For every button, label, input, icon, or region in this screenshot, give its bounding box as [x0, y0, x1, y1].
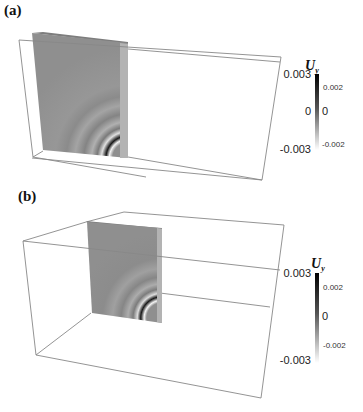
box-a-edge — [262, 57, 281, 180]
colorbar-b-max-label: 0.003 — [283, 267, 311, 279]
colorbar-a-tick-label: 0 — [322, 105, 328, 117]
colorbar-b-tick-label: -0.002 — [323, 341, 346, 350]
colorbar-a-gradient — [315, 74, 319, 150]
box-b-edge — [23, 222, 86, 241]
box-b-edge — [261, 225, 284, 398]
colorbar-b-min-label: -0.003 — [280, 354, 311, 366]
box-b-edge — [86, 212, 124, 222]
box-b-edge — [23, 241, 36, 355]
figure-canvas: (a) Uy 0.003 0 -0.003 0.002 0 -0.002 — [0, 0, 363, 412]
colorbar-b-tick-label: 0.002 — [323, 283, 344, 292]
box-a-edge — [33, 151, 43, 157]
box-b-edge — [124, 212, 284, 225]
colorbar-b-gradient — [315, 273, 319, 363]
panel-b: (b) Uy 0.003 -0.003 0.002 0 -0.002 — [18, 188, 346, 398]
box-a-edge — [128, 157, 262, 180]
box-b-edge — [36, 313, 91, 355]
panel-a: (a) Uy 0.003 0 -0.003 0.002 0 -0.002 — [4, 2, 345, 180]
colorbar-a-min-label: -0.003 — [280, 143, 311, 155]
colorbar-b-tick-label: 0 — [322, 310, 328, 322]
colorbar-a: Uy 0.003 0 -0.003 0.002 0 -0.002 — [280, 58, 345, 155]
slab-b — [86, 221, 162, 323]
colorbar-b-title: Uy — [311, 256, 325, 273]
slab-a — [32, 32, 128, 158]
box-b-edge — [160, 293, 270, 307]
colorbar-a-mid-label: 0 — [305, 105, 311, 117]
panel-a-label: (a) — [4, 2, 22, 19]
box-b-edge — [36, 355, 261, 398]
panel-b-label: (b) — [18, 188, 36, 205]
colorbar-a-max-label: 0.003 — [283, 68, 311, 80]
colorbar-a-tick-label: -0.002 — [322, 140, 345, 149]
colorbar-b: Uy 0.003 -0.003 0.002 0 -0.002 — [280, 256, 346, 366]
box-a-edge — [19, 40, 33, 157]
colorbar-a-tick-label: 0.002 — [323, 83, 344, 92]
